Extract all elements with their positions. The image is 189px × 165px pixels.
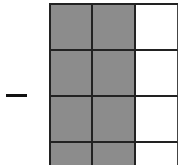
- shaded-cell: [93, 51, 135, 97]
- shaded-cell: [93, 143, 135, 165]
- minus-sign: [6, 94, 27, 97]
- unshaded-cell: [136, 143, 178, 165]
- shaded-cell: [51, 97, 93, 143]
- fraction-grid: [49, 3, 178, 165]
- shaded-cell: [93, 97, 135, 143]
- shaded-cell: [51, 143, 93, 165]
- shaded-cell: [51, 5, 93, 51]
- unshaded-cell: [136, 5, 178, 51]
- unshaded-cell: [136, 97, 178, 143]
- unshaded-cell: [136, 51, 178, 97]
- shaded-cell: [93, 5, 135, 51]
- shaded-cell: [51, 51, 93, 97]
